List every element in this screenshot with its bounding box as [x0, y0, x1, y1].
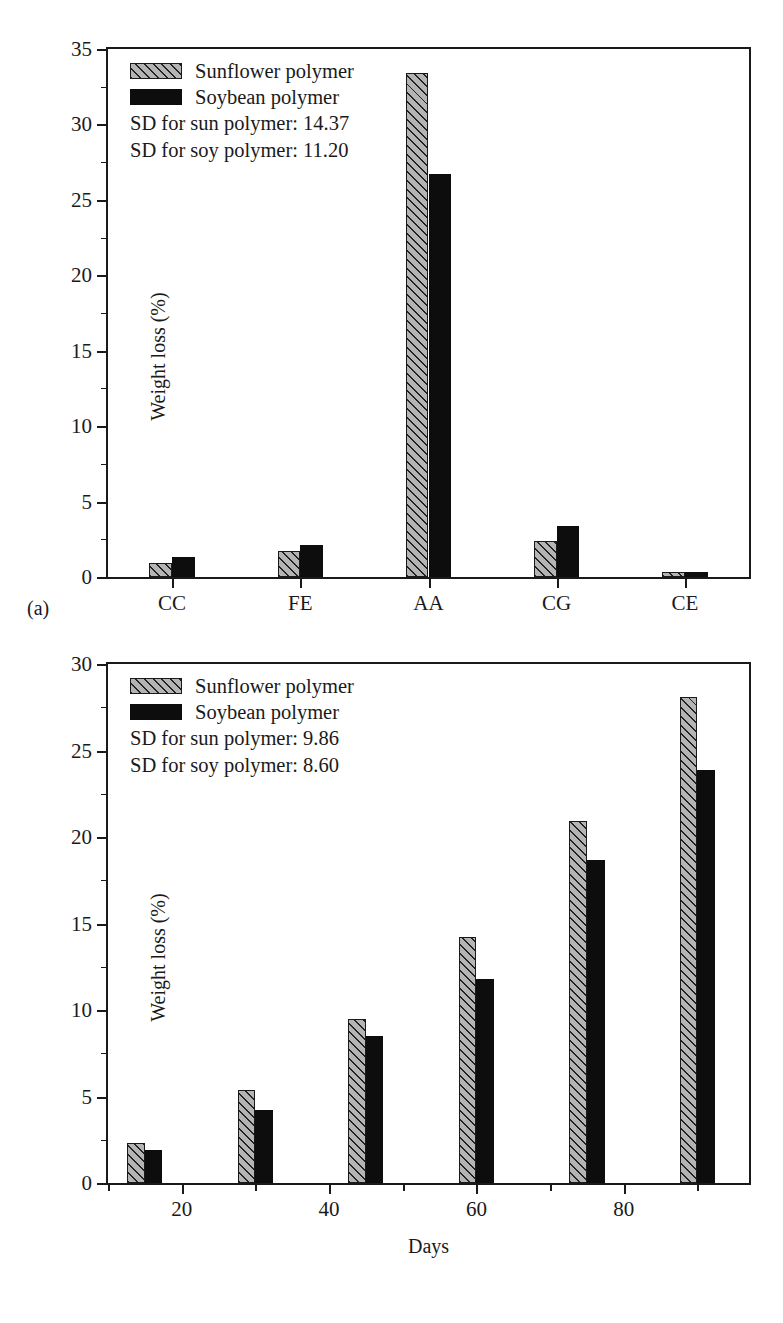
y-axis-tick-label: 15 — [71, 913, 92, 934]
legend-b: Sunflower polymer Soybean polymer SD for… — [130, 673, 354, 779]
bar-soybean — [697, 770, 715, 1183]
y-axis-tick — [97, 924, 108, 926]
bar-soybean — [255, 1110, 273, 1183]
y-axis-tick-label: 25 — [71, 189, 92, 210]
y-axis-tick-label: 20 — [71, 827, 92, 848]
x-axis-tick — [557, 577, 559, 588]
y-axis-tick-label: 5 — [82, 491, 93, 512]
y-axis-tick-label: 15 — [71, 340, 92, 361]
bar-soybean — [366, 1036, 384, 1183]
bar-soybean — [587, 860, 605, 1184]
x-axis-tick-label: 80 — [613, 1199, 634, 1220]
legend-note-sd-sun: SD for sun polymer: 9.86 — [130, 725, 354, 752]
bar-soybean — [300, 545, 323, 577]
y-axis-title-b: Weight loss (%) — [147, 893, 170, 1021]
x-axis-title-b: Days — [408, 1235, 449, 1258]
y-axis-tick — [97, 49, 108, 51]
legend-swatch-sunflower-icon — [130, 678, 182, 694]
legend-label-sunflower: Sunflower polymer — [195, 58, 354, 85]
x-axis-tick-label: 40 — [319, 1199, 340, 1220]
x-axis-tick — [685, 577, 687, 588]
x-axis-tick — [172, 577, 174, 588]
chart-panel-b: 05101520253020406080 Weight loss (%) Day… — [0, 640, 783, 1323]
bar-sunflower — [459, 937, 477, 1183]
y-axis-tick-label: 35 — [71, 39, 92, 60]
legend-label-soybean: Soybean polymer — [195, 84, 339, 111]
y-axis-tick-label: 25 — [71, 740, 92, 761]
y-axis-tick — [97, 577, 108, 579]
y-axis-tick — [97, 426, 108, 428]
bar-soybean — [557, 526, 580, 577]
bar-sunflower — [534, 541, 557, 577]
y-axis-minor-tick — [101, 388, 108, 389]
bar-soybean — [476, 979, 494, 1183]
legend-entry-sunflower: Sunflower polymer — [130, 673, 354, 699]
x-axis-tick-label: AA — [413, 593, 443, 614]
y-axis-tick — [97, 1010, 108, 1012]
y-axis-tick — [97, 124, 108, 126]
x-axis-tick — [300, 577, 302, 588]
y-axis-tick — [97, 664, 108, 666]
legend-swatch-soybean-icon — [130, 89, 182, 105]
y-axis-minor-tick — [101, 313, 108, 314]
y-axis-tick — [97, 200, 108, 202]
x-axis-tick-label: FE — [288, 593, 313, 614]
y-axis-tick-label: 0 — [82, 1173, 93, 1194]
x-axis-tick — [624, 1183, 626, 1194]
y-axis-tick-label: 30 — [71, 654, 92, 675]
panel-caption-a: (a) — [27, 598, 49, 618]
y-axis-title-a: Weight loss (%) — [147, 292, 170, 420]
y-axis-tick — [97, 1183, 108, 1185]
x-axis-tick-label: 20 — [171, 1199, 192, 1220]
bar-soybean — [145, 1150, 163, 1183]
y-axis-minor-tick — [101, 880, 108, 881]
bar-sunflower — [127, 1143, 145, 1183]
bar-soybean — [429, 174, 452, 577]
y-axis-tick-label: 30 — [71, 114, 92, 135]
legend-a: Sunflower polymer Soybean polymer SD for… — [130, 58, 354, 164]
x-axis-tick — [476, 1183, 478, 1194]
y-axis-minor-tick — [101, 464, 108, 465]
y-axis-tick-label: 10 — [71, 416, 92, 437]
y-axis-tick — [97, 351, 108, 353]
legend-entry-sunflower: Sunflower polymer — [130, 58, 354, 84]
y-axis-minor-tick — [101, 707, 108, 708]
y-axis-minor-tick — [101, 794, 108, 795]
bar-sunflower — [569, 821, 587, 1183]
bar-sunflower — [680, 697, 698, 1183]
x-axis-minor-tick — [697, 1183, 699, 1191]
legend-label-sunflower: Sunflower polymer — [195, 673, 354, 700]
y-axis-minor-tick — [101, 1053, 108, 1054]
y-axis-tick-label: 0 — [82, 567, 93, 588]
x-axis-tick — [182, 1183, 184, 1194]
y-axis-minor-tick — [101, 1140, 108, 1141]
y-axis-minor-tick — [101, 87, 108, 88]
legend-note-sd-soy: SD for soy polymer: 11.20 — [130, 137, 354, 164]
legend-note-sd-soy: SD for soy polymer: 8.60 — [130, 752, 354, 779]
bar-sunflower — [348, 1019, 366, 1183]
y-axis-minor-tick — [101, 539, 108, 540]
y-axis-tick — [97, 1097, 108, 1099]
bar-sunflower — [238, 1090, 256, 1183]
bar-sunflower — [278, 551, 301, 577]
bar-sunflower — [149, 563, 172, 577]
x-axis-minor-tick — [255, 1183, 257, 1191]
y-axis-tick — [97, 275, 108, 277]
x-axis-minor-tick — [403, 1183, 405, 1191]
legend-swatch-soybean-icon — [130, 704, 182, 720]
y-axis-tick-label: 5 — [82, 1086, 93, 1107]
x-axis-tick-label: CE — [671, 593, 698, 614]
y-axis-minor-tick — [101, 967, 108, 968]
y-axis-tick — [97, 502, 108, 504]
x-axis-tick — [429, 577, 431, 588]
x-axis-tick-label: CG — [542, 593, 571, 614]
bar-soybean — [172, 557, 195, 577]
y-axis-tick-label: 10 — [71, 1000, 92, 1021]
y-axis-tick-label: 20 — [71, 265, 92, 286]
x-axis-minor-tick — [108, 1183, 110, 1191]
y-axis-tick — [97, 751, 108, 753]
bar-sunflower — [662, 572, 685, 577]
legend-entry-soybean: Soybean polymer — [130, 84, 354, 110]
y-axis-minor-tick — [101, 162, 108, 163]
legend-label-soybean: Soybean polymer — [195, 699, 339, 726]
